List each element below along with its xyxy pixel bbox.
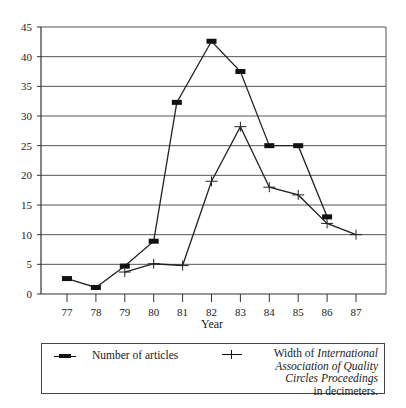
svg-text:83: 83 <box>235 306 247 318</box>
svg-text:20: 20 <box>21 169 33 181</box>
svg-text:5: 5 <box>27 258 33 270</box>
legend-text: Width of <box>274 347 318 359</box>
y-tick-labels: 051015202530354045 <box>21 21 33 300</box>
data-series <box>62 39 362 290</box>
gridlines <box>41 27 386 264</box>
filled-rectangle-marker-icon <box>59 354 71 358</box>
svg-text:80: 80 <box>148 306 160 318</box>
legend-item-proceedings-width: Width of International Association of Qu… <box>274 347 378 397</box>
svg-text:84: 84 <box>264 306 276 318</box>
svg-text:86: 86 <box>322 306 334 318</box>
svg-text:45: 45 <box>21 21 33 33</box>
svg-text:30: 30 <box>21 110 33 122</box>
legend: Number of articles Width of Internationa… <box>41 343 385 394</box>
legend-label-articles: Number of articles <box>92 349 178 361</box>
legend-item-articles: Number of articles <box>92 349 178 361</box>
svg-text:35: 35 <box>21 80 33 92</box>
svg-text:40: 40 <box>21 51 33 63</box>
svg-text:78: 78 <box>90 306 102 318</box>
legend-text: in decimeters. <box>313 385 378 397</box>
svg-text:25: 25 <box>21 140 33 152</box>
plus-marker-icon <box>222 349 242 359</box>
line-chart: 051015202530354045 777879808182838485868… <box>0 0 406 340</box>
svg-text:77: 77 <box>62 306 74 318</box>
legend-text: Circles Proceedings <box>285 372 378 384</box>
svg-text:85: 85 <box>293 306 305 318</box>
svg-text:79: 79 <box>119 306 131 318</box>
svg-text:87: 87 <box>351 306 363 318</box>
x-axis-label: Year <box>201 317 223 331</box>
legend-text: International <box>317 347 378 359</box>
svg-text:15: 15 <box>21 199 33 211</box>
axes <box>37 27 386 302</box>
svg-text:81: 81 <box>177 306 188 318</box>
svg-text:10: 10 <box>21 229 33 241</box>
svg-text:0: 0 <box>27 288 33 300</box>
legend-text: Association of Quality <box>275 360 378 372</box>
